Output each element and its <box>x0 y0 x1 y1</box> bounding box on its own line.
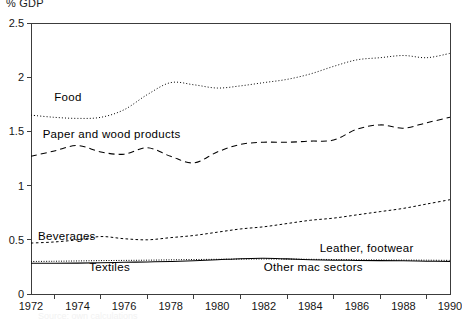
series-annotation-label: Textiles <box>89 261 130 273</box>
x-tick-label: 1988 <box>391 300 415 312</box>
x-tick-label: 1980 <box>205 300 229 312</box>
x-tick-label: 1984 <box>298 300 322 312</box>
y-tick-label: 1 <box>18 180 24 192</box>
y-axis-tick-group: 00.511.522.5 <box>9 17 31 300</box>
series-line <box>31 53 450 118</box>
x-axis-tick-group: 1972197419761978198019821984198619881990 <box>19 294 462 312</box>
line-chart-plot: 00.511.522.5 197219741976197819801982198… <box>0 0 462 322</box>
series-line <box>31 117 450 163</box>
series-annotation-label: Beverages <box>38 230 96 242</box>
series-annotation-label: Food <box>54 91 81 103</box>
x-tick-label: 1986 <box>345 300 369 312</box>
x-tick-label: 1978 <box>158 300 182 312</box>
y-tick-label: 2.5 <box>9 17 24 29</box>
y-tick-label: 0.5 <box>9 234 24 246</box>
series-annotation-label: Paper and wood products <box>43 128 181 140</box>
x-tick-label: 1990 <box>438 300 462 312</box>
chart-container: % GDP 00.511.522.5 197219741976197819801… <box>0 0 462 322</box>
y-tick-label: 0 <box>18 288 24 300</box>
y-tick-label: 1.5 <box>9 125 24 137</box>
series-annotation-label: Other mac sectors <box>264 261 363 273</box>
x-tick-label: 1982 <box>252 300 276 312</box>
footer-note: Source: own calculations <box>38 311 138 321</box>
series-annotation-group: FoodPaper and wood productsBeveragesLeat… <box>38 91 414 273</box>
y-tick-label: 2 <box>18 71 24 83</box>
series-annotation-label: Leather, footwear <box>320 242 414 254</box>
